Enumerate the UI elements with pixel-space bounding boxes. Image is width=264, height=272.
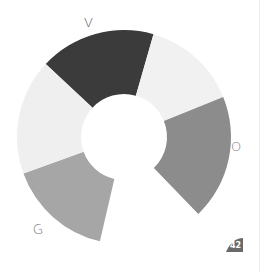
label-v: V [84,16,93,29]
page-edge-divider [259,0,260,272]
page-number: 42 [230,242,241,250]
label-o: O [231,140,241,153]
label-g: G [32,222,44,237]
